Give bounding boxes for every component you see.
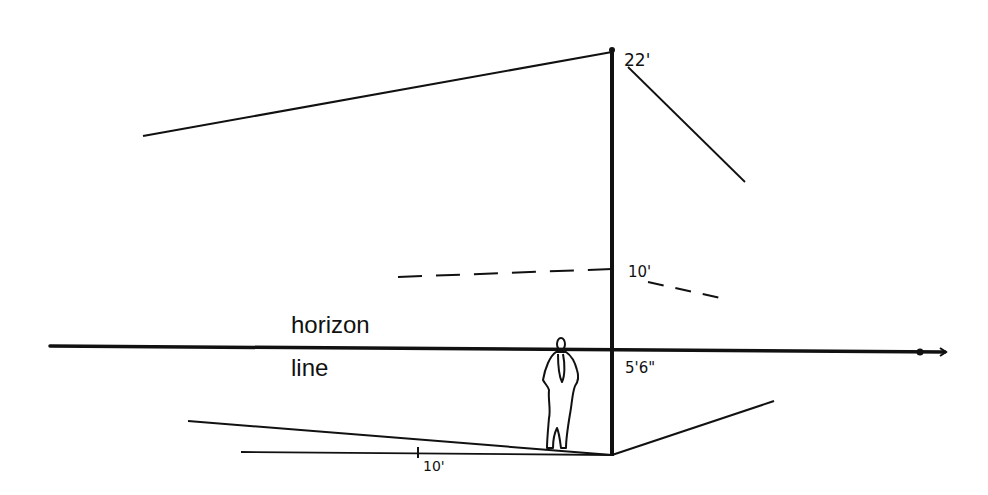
line-label: line: [291, 354, 328, 381]
ground-right-edge: [612, 401, 774, 455]
height-22-label: 22': [624, 50, 650, 70]
ground-measure-line: [241, 452, 612, 455]
ground-measure-label: 10': [423, 458, 445, 474]
perspective-diagram: 22' 10' 5'6" 10' horizon line: [0, 0, 988, 495]
horizon-label: horizon: [291, 311, 370, 338]
dashed-left-10ft: [398, 269, 612, 277]
eye-level-label: 5'6": [625, 359, 655, 377]
horizon-line: [50, 346, 946, 356]
top-left-edge: [143, 52, 612, 136]
dashed-right-10ft: [648, 282, 730, 300]
height-10-label: 10': [628, 263, 651, 281]
human-figure: [543, 338, 578, 448]
top-right-edge: [628, 67, 745, 182]
